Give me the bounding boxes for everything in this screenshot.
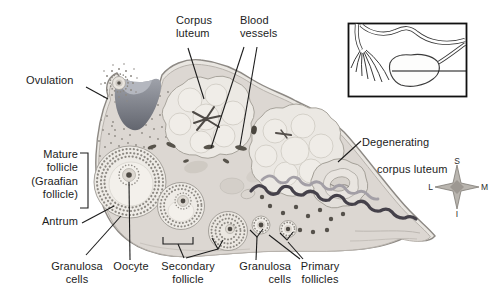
compass-medial-label: M	[481, 182, 488, 192]
label-degenerating-corpus-luteum: Degenerating corpus luteum	[362, 123, 447, 190]
label-granulosa-cells-right: Granulosa cells	[233, 260, 291, 287]
label-primary-follicles: Primary follicles	[293, 260, 347, 287]
label-antrum: Antrum	[34, 215, 78, 228]
label-ovulation: Ovulation	[26, 74, 73, 87]
label-mature-follicle: Mature follicle (Graafian follicle)	[24, 148, 78, 202]
mature-follicle-shape	[94, 146, 166, 218]
label-granulosa-cells-left: Granulosa cells	[48, 260, 106, 287]
compass-inferior-label: I	[456, 209, 458, 219]
mature-follicle-bracket	[80, 153, 88, 208]
secondary-follicle-2-shape	[209, 212, 248, 251]
label-corpus-luteum: Corpus luteum	[176, 14, 212, 41]
secondary-follicle-shape	[158, 183, 205, 230]
label-secondary-follicle: Secondary follicle	[159, 260, 217, 287]
ovulation-leader	[86, 87, 108, 99]
label-blood-vessels: Blood vessels	[240, 14, 277, 41]
ovary-follicle-development-figure: S L M I Ovulation Corpus luteum Blood ve…	[0, 0, 490, 305]
label-degenerating-line1: Degenerating	[362, 136, 447, 149]
label-degenerating-line2: corpus luteum	[377, 163, 447, 176]
compass-superior-label: S	[454, 156, 460, 166]
label-oocyte: Oocyte	[110, 260, 152, 273]
inset-locator-diagram	[349, 24, 467, 97]
granulosa-left-leader	[86, 216, 121, 255]
